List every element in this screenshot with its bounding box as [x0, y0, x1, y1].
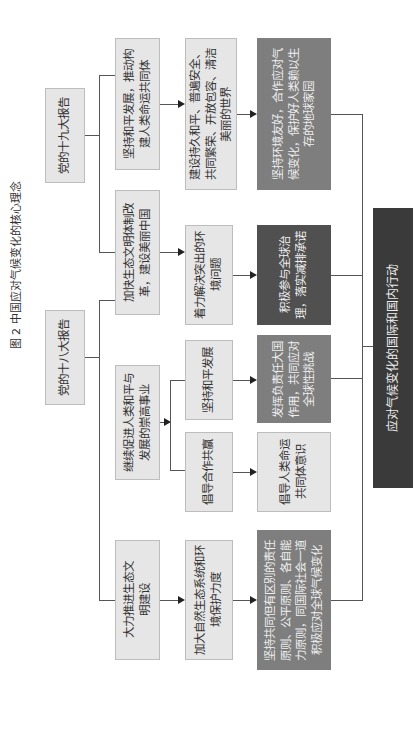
connector	[362, 114, 363, 601]
connector	[160, 252, 180, 253]
arrow-icon	[250, 110, 257, 118]
final-outcome-text: 应对气候变化的国际和国内行动	[385, 213, 401, 483]
connector	[170, 380, 171, 470]
report-19th-box: 党的十九大报告	[45, 88, 85, 183]
connector	[331, 114, 363, 115]
level3-box-c2: 倡导合作共赢	[185, 432, 233, 512]
level3-text-d: 加大自然生态系统和环境保护力度	[193, 545, 224, 655]
level2-text-c: 继续促进人类和平与发展的崇高事业	[122, 370, 153, 475]
level4-box-d: 坚持共同但有区别的责任原则、公平原则、各自能力原则，同国际社会一道积极应对全球气…	[257, 530, 331, 670]
connector	[85, 135, 99, 136]
connector	[170, 470, 185, 471]
level2-box-a: 坚持和平发展，推动构建人类命运共同体	[115, 38, 160, 170]
level4-box-a: 坚持环境友好，合作应对气候变化，保护好人类赖以生存的地球家园	[257, 38, 331, 190]
connector	[331, 275, 363, 276]
level4-text-c2: 倡导人类命运共同体意识	[278, 436, 309, 508]
level3-text-c2: 倡导合作共赢	[201, 437, 217, 507]
connector	[331, 600, 363, 601]
level4-box-b: 积极参与全球治理，落实减排承诺	[257, 225, 331, 325]
connector	[99, 300, 100, 600]
level3-box-b: 着力解决突出的环境问题	[185, 225, 233, 325]
report-18th-box: 党的十八大报告	[45, 310, 85, 405]
connector	[362, 346, 373, 347]
report-18th-label: 党的十八大报告	[57, 312, 73, 402]
connector	[170, 380, 185, 381]
level3-text-c1: 坚持和平发展	[201, 345, 217, 415]
connector	[99, 75, 100, 253]
level3-box-c1: 坚持和平发展	[185, 340, 233, 420]
level2-text-b: 加快生态文明体制改革，建设美丽中国	[122, 195, 153, 310]
connector	[99, 600, 115, 601]
report-19th-label: 党的十九大报告	[57, 90, 73, 180]
level2-text-a: 坚持和平发展，推动构建人类命运共同体	[122, 44, 153, 164]
arrow-icon	[178, 100, 185, 108]
level4-box-c1: 发挥负责任大国作用，共同应对全球性挑战	[257, 335, 331, 423]
level2-box-c: 继续促进人类和平与发展的崇高事业	[115, 365, 160, 480]
connector	[99, 75, 115, 76]
level3-box-d: 加大自然生态系统和环境保护力度	[185, 540, 233, 660]
connector	[99, 252, 115, 253]
level3-box-a: 建设持久和平、普遍安全、共同繁荣、开放包容、清洁美丽的世界	[185, 38, 237, 190]
level4-text-d: 坚持共同但有区别的责任原则、公平原则、各自能力原则，同国际社会一道积极应对全球气…	[263, 535, 325, 665]
level2-box-b: 加快生态文明体制改革，建设美丽中国	[115, 190, 160, 315]
level4-text-b: 积极参与全球治理，落实减排承诺	[278, 230, 309, 320]
figure-title: 图 2 中国应对气候变化的核心理念	[2, 130, 32, 400]
connector	[160, 600, 180, 601]
level2-text-d: 大力推进生态文明建设	[122, 560, 153, 640]
connector	[85, 357, 99, 358]
level2-box-d: 大力推进生态文明建设	[115, 540, 160, 660]
level3-text-b: 着力解决突出的环境问题	[193, 230, 224, 320]
arrow-icon	[250, 376, 257, 384]
arrow-icon	[250, 271, 257, 279]
connector	[160, 104, 180, 105]
connector	[99, 300, 115, 301]
level4-text-c1: 发挥负责任大国作用，共同应对全球性挑战	[271, 339, 318, 419]
connector	[331, 378, 363, 379]
arrow-icon	[250, 596, 257, 604]
level4-box-c2: 倡导人类命运共同体意识	[257, 432, 331, 512]
level4-text-a: 坚持环境友好，合作应对气候变化，保护好人类赖以生存的地球家园	[271, 44, 318, 184]
arrow-icon	[250, 468, 257, 476]
arrow-icon	[178, 248, 185, 256]
figure-title-text: 图 2 中国应对气候变化的核心理念	[10, 130, 25, 400]
final-outcome-box: 应对气候变化的国际和国内行动	[373, 208, 413, 488]
arrow-icon	[178, 596, 185, 604]
level3-text-a: 建设持久和平、普遍安全、共同繁荣、开放包容、清洁美丽的世界	[188, 44, 235, 184]
